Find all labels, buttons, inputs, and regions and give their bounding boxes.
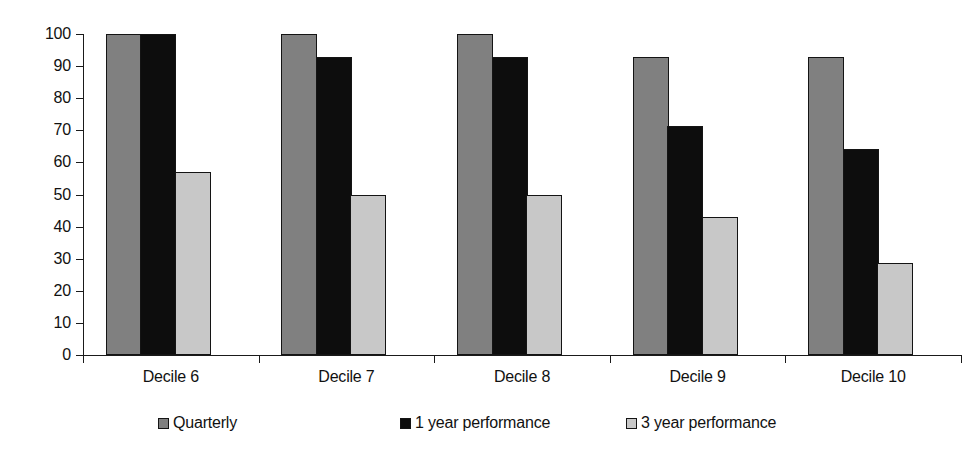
y-axis-tick-mark [76, 66, 83, 67]
legend-item[interactable]: 3 year performance [626, 414, 776, 432]
bar-group [281, 34, 386, 355]
y-axis-tick-label: 0 [62, 346, 71, 364]
y-axis-tick-label: 60 [54, 153, 71, 171]
bar[interactable] [457, 34, 493, 355]
bar[interactable] [702, 217, 738, 355]
bar-group [106, 34, 211, 355]
bar-group [633, 34, 738, 355]
bar[interactable] [281, 34, 317, 355]
legend-item[interactable]: 1 year performance [400, 414, 550, 432]
bar[interactable] [808, 57, 844, 355]
y-axis-tick-label: 100 [45, 25, 71, 43]
legend-label: Quarterly [173, 414, 237, 432]
y-axis-tick-mark [76, 162, 83, 163]
x-axis-category-label: Decile 6 [83, 368, 259, 386]
legend-item[interactable]: Quarterly [158, 414, 237, 432]
y-axis-tick-mark [76, 291, 83, 292]
x-axis-category-label: Decile 10 [785, 368, 961, 386]
y-axis-tick-label: 30 [54, 250, 71, 268]
bar[interactable] [175, 172, 211, 355]
y-axis-tick-mark [76, 323, 83, 324]
y-axis-tick-label: 70 [54, 121, 71, 139]
legend-label: 1 year performance [415, 414, 550, 432]
y-axis-tick-mark [76, 227, 83, 228]
y-axis-tick-label: 40 [54, 218, 71, 236]
y-axis-tick-label: 90 [54, 57, 71, 75]
x-axis-category-label: Decile 7 [259, 368, 435, 386]
bar-group [808, 34, 913, 355]
x-axis-tick-mark [785, 355, 786, 363]
bar[interactable] [526, 195, 562, 356]
bar[interactable] [492, 57, 528, 355]
bar[interactable] [106, 34, 142, 355]
x-axis-tick-mark [83, 355, 84, 363]
x-axis-category-label: Decile 8 [434, 368, 610, 386]
chart-legend: Quarterly1 year performance3 year perfor… [0, 414, 976, 440]
x-axis-tick-mark [434, 355, 435, 363]
x-axis-category-label: Decile 9 [610, 368, 786, 386]
y-axis-tick-mark [76, 355, 83, 356]
y-axis-tick-mark [76, 259, 83, 260]
x-axis-tick-mark [961, 355, 962, 363]
bar[interactable] [140, 34, 176, 355]
bar-group [457, 34, 562, 355]
legend-label: 3 year performance [641, 414, 776, 432]
y-axis-tick-label: 10 [54, 314, 71, 332]
legend-swatch-icon [400, 418, 411, 429]
bar[interactable] [667, 126, 703, 355]
y-axis-tick-mark [76, 195, 83, 196]
x-axis-line [83, 355, 961, 356]
y-axis-tick-mark [76, 98, 83, 99]
chart-page: 0102030405060708090100 Decile 6Decile 7D… [0, 0, 976, 459]
legend-swatch-icon [158, 418, 169, 429]
y-axis-tick-label: 50 [54, 186, 71, 204]
bar[interactable] [350, 195, 386, 356]
x-axis-tick-mark [259, 355, 260, 363]
bar[interactable] [633, 57, 669, 355]
plot-area: 0102030405060708090100 [83, 34, 961, 355]
bar[interactable] [877, 263, 913, 355]
x-axis-tick-mark [610, 355, 611, 363]
y-axis-tick-mark [76, 34, 83, 35]
bar[interactable] [316, 57, 352, 355]
y-axis-tick-label: 80 [54, 89, 71, 107]
y-axis-tick-mark [76, 130, 83, 131]
legend-swatch-icon [626, 418, 637, 429]
y-axis-tick-label: 20 [54, 282, 71, 300]
bar[interactable] [843, 149, 879, 355]
